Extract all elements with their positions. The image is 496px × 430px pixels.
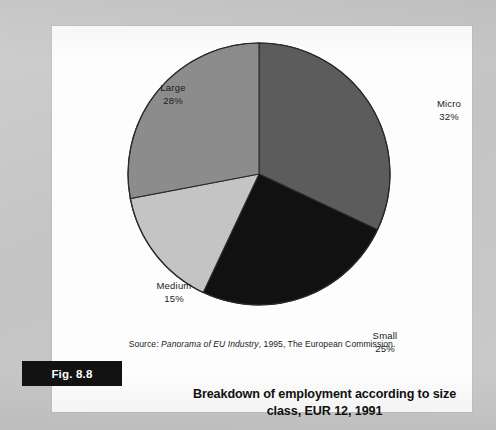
pie-chart-area: Large 28% Micro 32% Medium 15% Small 25% [52, 26, 472, 326]
pie-svg [126, 41, 392, 307]
figure-page-backdrop: Large 28% Micro 32% Medium 15% Small 25%… [0, 0, 496, 430]
figure-title: Breakdown of employment according to siz… [182, 386, 467, 419]
figure-number-badge: Fig. 8.8 [22, 361, 122, 386]
figure-page: Large 28% Micro 32% Medium 15% Small 25%… [52, 26, 472, 412]
source-suffix: , 1995, The European Commission. [259, 339, 396, 349]
pie-label-micro-pct: 32% [426, 111, 472, 124]
source-prefix: Source: [129, 339, 161, 349]
pie-label-large: Large 28% [150, 82, 196, 107]
pie-label-large-name: Large [160, 82, 185, 93]
source-publication-title: Panorama of EU Industry [161, 339, 259, 349]
pie-label-medium: Medium 15% [146, 280, 202, 305]
pie-label-micro: Micro 32% [426, 98, 472, 123]
pie-slice-large[interactable] [128, 43, 259, 199]
pie-label-medium-pct: 15% [146, 293, 202, 306]
source-note: Source: Panorama of EU Industry, 1995, T… [52, 339, 472, 349]
figure-title-line-1: Breakdown of employment according to siz… [182, 386, 467, 403]
pie-chart [126, 41, 392, 307]
pie-label-micro-name: Micro [437, 98, 461, 109]
figure-number-label: Fig. 8.8 [51, 368, 92, 380]
pie-label-medium-name: Medium [157, 280, 192, 291]
pie-label-large-pct: 28% [150, 95, 196, 108]
figure-title-line-2: class, EUR 12, 1991 [182, 403, 467, 420]
